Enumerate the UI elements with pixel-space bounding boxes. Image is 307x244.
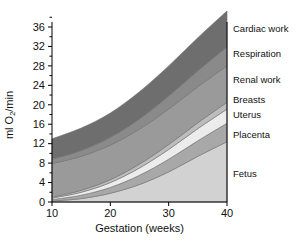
oxygen-consumption-stacked-area-chart: 0481216202428323610203040Gestation (week… xyxy=(0,0,307,244)
legend-label-breasts: Breasts xyxy=(233,94,265,105)
x-tick-label-40: 40 xyxy=(221,207,233,219)
legend-group: Cardiac workRespirationRenal workBreasts… xyxy=(233,23,289,179)
y-axis-title-post: /min xyxy=(3,91,15,112)
legend-label-uterus: Uterus xyxy=(233,109,261,120)
y-tick-label-24: 24 xyxy=(33,79,45,91)
y-tick-label-8: 8 xyxy=(39,157,45,169)
y-tick-label-12: 12 xyxy=(33,137,45,149)
y-tick-label-36: 36 xyxy=(33,21,45,33)
legend-label-respiration: Respiration xyxy=(233,48,281,59)
stacked-bands-group xyxy=(52,11,227,202)
legend-label-cardiac-work: Cardiac work xyxy=(233,23,289,34)
y-tick-label-28: 28 xyxy=(33,60,45,72)
x-tick-label-10: 10 xyxy=(46,207,58,219)
legend-label-renal-work: Renal work xyxy=(233,74,281,85)
y-tick-label-20: 20 xyxy=(33,99,45,111)
y-axis-title-pre: ml O xyxy=(3,115,15,139)
y-axis-title: ml O2/min xyxy=(3,91,17,139)
y-tick-label-16: 16 xyxy=(33,118,45,130)
x-axis-title: Gestation (weeks) xyxy=(95,222,184,234)
y-tick-label-32: 32 xyxy=(33,40,45,52)
x-tick-label-30: 30 xyxy=(163,207,175,219)
x-tick-label-20: 20 xyxy=(104,207,116,219)
y-tick-label-4: 4 xyxy=(39,176,45,188)
legend-label-fetus: Fetus xyxy=(233,168,257,179)
y-tick-label-0: 0 xyxy=(39,196,45,208)
legend-label-placenta: Placenta xyxy=(233,129,271,140)
chart-canvas: 0481216202428323610203040Gestation (week… xyxy=(0,0,307,244)
